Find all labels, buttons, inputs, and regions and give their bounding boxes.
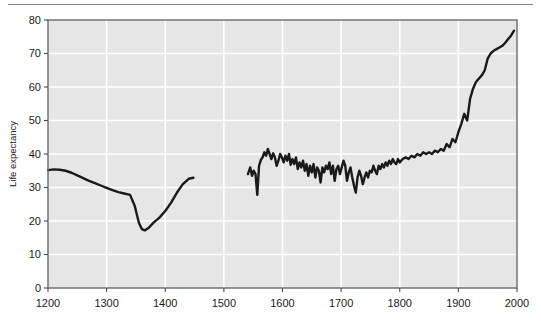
- x-tick-label: 1300: [94, 297, 118, 309]
- y-tick-label: 70: [29, 47, 41, 59]
- y-tick-label: 40: [29, 148, 41, 160]
- y-tick-label: 0: [35, 282, 41, 294]
- x-tick-label: 1400: [153, 297, 177, 309]
- y-tick-label: 60: [29, 81, 41, 93]
- y-tick-label: 50: [29, 114, 41, 126]
- x-tick-label: 2000: [505, 297, 529, 309]
- y-tick-label: 80: [29, 14, 41, 26]
- x-tick-label: 1700: [329, 297, 353, 309]
- x-axis-tick-labels: 120013001400150016001700180019002000: [36, 297, 529, 309]
- x-tick-label: 1200: [36, 297, 60, 309]
- x-tick-label: 1800: [388, 297, 412, 309]
- y-tick-label: 10: [29, 248, 41, 260]
- chart-plot-wrapper: 01020304050607080 1200130014001500160017…: [0, 0, 541, 323]
- y-axis-title: Life expectancy: [7, 121, 18, 187]
- y-tick-label: 20: [29, 215, 41, 227]
- life-expectancy-line-chart: 01020304050607080 1200130014001500160017…: [0, 0, 541, 323]
- x-tick-label: 1500: [212, 297, 236, 309]
- y-axis-tick-labels: 01020304050607080: [29, 14, 41, 294]
- figure-container: 01020304050607080 1200130014001500160017…: [0, 0, 541, 323]
- x-tick-label: 1900: [446, 297, 470, 309]
- y-tick-label: 30: [29, 181, 41, 193]
- x-tick-label: 1600: [270, 297, 294, 309]
